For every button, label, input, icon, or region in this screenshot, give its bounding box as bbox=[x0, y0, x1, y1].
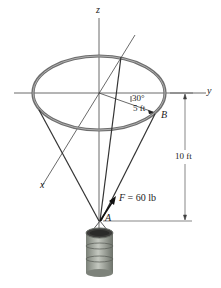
barrel bbox=[86, 221, 113, 277]
diagram-svg bbox=[0, 0, 221, 288]
force-label: F = 60 lb bbox=[119, 193, 156, 203]
angle-label: 30° bbox=[132, 94, 145, 103]
y-axis-label: y bbox=[207, 86, 211, 96]
dimension-arrow-up-icon bbox=[184, 94, 187, 99]
radius-line bbox=[99, 93, 156, 113]
z-axis-label: z bbox=[96, 5, 100, 15]
force-value: = 60 lb bbox=[128, 192, 156, 203]
height-label: 10 ft bbox=[175, 152, 192, 161]
point-b-label: B bbox=[161, 110, 167, 120]
cable-back bbox=[100, 57, 121, 221]
dimension-arrow-down-icon bbox=[184, 215, 187, 220]
x-axis-label: x bbox=[40, 180, 44, 190]
diagram-canvas: z y x 30° 5 ft B A F = 60 lb 10 ft bbox=[0, 0, 221, 288]
radius-label: 5 ft bbox=[133, 104, 145, 113]
force-variable: F bbox=[119, 192, 125, 203]
point-a-label: A bbox=[105, 213, 111, 223]
